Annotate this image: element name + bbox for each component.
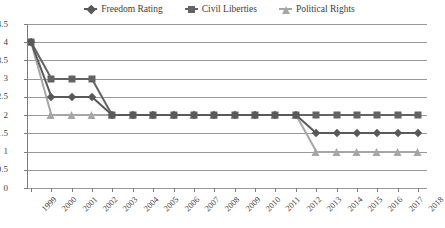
- x-axis-tick-label: 2001: [81, 195, 99, 213]
- y-axis-tick: [24, 152, 28, 153]
- data-point-marker: [332, 148, 340, 156]
- data-point-marker: [374, 112, 381, 119]
- data-point-marker: [373, 148, 381, 156]
- x-axis-tick-label: 2017: [407, 195, 425, 213]
- data-point-marker: [333, 112, 340, 119]
- x-axis-tick: [72, 188, 73, 192]
- chart-legend: Freedom Rating Civil Liberties Political…: [0, 2, 439, 16]
- data-point-marker: [353, 112, 360, 119]
- x-axis-tick: [92, 188, 93, 192]
- data-point-marker: [414, 148, 422, 156]
- data-point-marker: [352, 148, 360, 156]
- series-line-segment: [30, 42, 52, 97]
- data-point-marker: [415, 112, 422, 119]
- x-axis-tick: [174, 188, 175, 192]
- x-axis-tick: [357, 188, 358, 192]
- x-axis-tick-label: 2006: [183, 195, 201, 213]
- y-axis-tick: [24, 188, 28, 189]
- x-axis-tick-label: 2000: [60, 195, 78, 213]
- y-axis-tick: [24, 60, 28, 61]
- x-axis-tick-label: 2014: [345, 195, 363, 213]
- y-axis-tick-label: 3: [4, 74, 9, 83]
- y-axis-tick-label: 2: [4, 111, 9, 120]
- y-axis-tick-label: 4: [4, 38, 9, 47]
- gridline: [28, 60, 427, 61]
- data-point-marker: [68, 75, 75, 82]
- x-axis-tick: [51, 188, 52, 192]
- x-axis-tick-label: 2005: [162, 195, 180, 213]
- data-point-marker: [313, 112, 320, 119]
- y-axis-tick: [24, 133, 28, 134]
- x-axis-tick: [275, 188, 276, 192]
- x-axis-tick: [235, 188, 236, 192]
- data-point-marker: [67, 93, 75, 101]
- x-axis-tick-label: 2003: [121, 195, 139, 213]
- x-axis-tick-label: 1999: [40, 195, 58, 213]
- x-axis-tick-label: 2002: [101, 195, 119, 213]
- y-axis-tick: [24, 115, 28, 116]
- data-point-marker: [393, 129, 401, 137]
- x-axis-tick-label: 2009: [244, 195, 262, 213]
- x-axis-tick-label: 2016: [386, 195, 404, 213]
- y-axis-tick-label: 4.5: [0, 20, 8, 29]
- data-point-marker: [312, 148, 320, 156]
- x-axis-tick-label: 2007: [203, 195, 221, 213]
- y-axis-tick-label: 1.5: [0, 129, 8, 138]
- x-axis-tick: [112, 188, 113, 192]
- data-point-marker: [47, 111, 55, 119]
- x-axis-tick-label: 2013: [325, 195, 343, 213]
- y-axis-tick-label: 0.5: [0, 165, 8, 174]
- legend-label-freedom-rating: Freedom Rating: [101, 4, 162, 14]
- gridline: [28, 42, 427, 43]
- data-point-marker: [394, 112, 401, 119]
- x-axis-tick-label: 2018: [427, 195, 445, 213]
- data-point-marker: [88, 111, 96, 119]
- y-axis-tick-label: 2.5: [0, 92, 8, 101]
- data-point-marker: [373, 129, 381, 137]
- y-axis-tick: [24, 79, 28, 80]
- y-axis-labels: 00.511.522.533.544.5: [0, 0, 24, 228]
- gridline: [28, 188, 427, 189]
- legend-label-political-rights: Political Rights: [296, 4, 355, 14]
- x-axis-tick: [398, 188, 399, 192]
- y-axis-tick: [24, 42, 28, 43]
- data-point-marker: [312, 129, 320, 137]
- x-axis-tick-label: 2010: [264, 195, 282, 213]
- y-axis-tick: [24, 97, 28, 98]
- data-point-marker: [353, 129, 361, 137]
- x-axis-tick: [377, 188, 378, 192]
- data-point-marker: [414, 129, 422, 137]
- legend-item-freedom-rating: Freedom Rating: [84, 4, 162, 14]
- x-axis-tick: [214, 188, 215, 192]
- data-point-marker: [332, 129, 340, 137]
- x-axis-tick: [337, 188, 338, 192]
- triangle-marker-icon: [279, 5, 292, 14]
- gridline: [28, 170, 427, 171]
- legend-label-civil-liberties: Civil Liberties: [202, 4, 257, 14]
- x-axis-tick: [418, 188, 419, 192]
- x-axis-tick-label: 2004: [142, 195, 160, 213]
- x-axis-tick-label: 2011: [284, 195, 302, 213]
- x-axis-tick: [194, 188, 195, 192]
- gridline: [28, 24, 427, 25]
- y-axis-tick: [24, 24, 28, 25]
- x-axis-tick-label: 2012: [305, 195, 323, 213]
- y-axis-tick-label: 0: [4, 184, 9, 193]
- plot-area: [28, 24, 427, 188]
- x-axis-tick-label: 2015: [366, 195, 384, 213]
- x-axis-tick-label: 2008: [223, 195, 241, 213]
- x-axis-tick: [316, 188, 317, 192]
- x-axis-tick: [255, 188, 256, 192]
- x-axis-tick: [296, 188, 297, 192]
- legend-item-civil-liberties: Civil Liberties: [185, 4, 257, 14]
- y-axis-tick-label: 1: [4, 147, 9, 156]
- legend-item-political-rights: Political Rights: [279, 4, 355, 14]
- y-axis-tick-label: 3.5: [0, 56, 8, 65]
- x-axis-tick: [133, 188, 134, 192]
- data-point-marker: [393, 148, 401, 156]
- y-axis-tick: [24, 170, 28, 171]
- x-axis-tick: [31, 188, 32, 192]
- square-marker-icon: [185, 5, 198, 14]
- x-axis-tick: [153, 188, 154, 192]
